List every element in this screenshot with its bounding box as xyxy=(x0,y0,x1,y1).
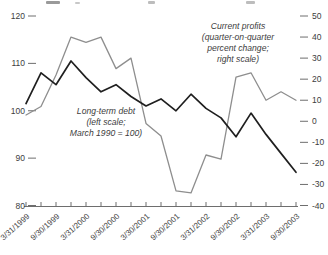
debt-line-series xyxy=(26,61,296,172)
annotation-line: (left scale; xyxy=(70,117,142,128)
right-axis-tick-label: 10 xyxy=(312,95,322,105)
right-axis-tick-label: 30 xyxy=(312,53,322,63)
dual-axis-line-chart: 3/31/19999/30/19993/31/20009/30/20003/30… xyxy=(0,0,328,255)
right-axis-tick-label: 0 xyxy=(312,116,317,126)
right-axis-tick-label: -30 xyxy=(312,179,325,189)
right-axis-tick-label: 50 xyxy=(312,11,322,21)
x-axis-tick-label: 9/30/2002 xyxy=(209,211,242,242)
annotation-line: right scale) xyxy=(202,54,274,65)
annotation-line: (quarter-on-quarter xyxy=(202,32,274,43)
x-axis-tick-label: 3/31/2003 xyxy=(239,211,272,242)
annotation-line: Current profits xyxy=(202,21,274,32)
x-axis-tick-label: 3/31/2000 xyxy=(59,211,92,242)
x-axis-tick-label: 9/30/2001 xyxy=(149,211,182,242)
annotation-line: March 1990 = 100) xyxy=(70,128,142,139)
right-axis-tick-label: -20 xyxy=(312,158,325,168)
left-axis-tick-label: 80 xyxy=(16,201,26,211)
right-axis-tick-label: 40 xyxy=(312,32,322,42)
left-axis-tick-label: 100 xyxy=(11,106,25,116)
x-axis-tick-label: 9/30/2000 xyxy=(89,211,122,242)
profits-series-annotation: Current profits (quarter-on-quarter perc… xyxy=(202,21,274,65)
x-axis-tick-label: 9/30/2003 xyxy=(269,211,302,242)
x-axis-tick-label: 9/30/1999 xyxy=(29,211,62,242)
debt-series-annotation: Long-term debt (left scale; March 1990 =… xyxy=(70,106,142,139)
x-axis-tick-label: 3/31/1999 xyxy=(0,211,32,242)
chart-figure: 3/31/19999/30/19993/31/20009/30/20003/30… xyxy=(0,0,328,255)
left-axis-tick-label: 110 xyxy=(11,58,25,68)
annotation-line: Long-term debt xyxy=(70,106,142,117)
right-axis-tick-label: -40 xyxy=(312,201,325,211)
x-axis-tick-label: 3/30/2001 xyxy=(119,211,152,242)
right-axis-tick-label: 20 xyxy=(312,74,322,84)
annotation-line: percent change; xyxy=(202,43,274,54)
left-axis-tick-label: 90 xyxy=(16,153,26,163)
right-axis-tick-label: -10 xyxy=(312,137,325,147)
x-axis-tick-label: 3/31/2002 xyxy=(179,211,212,242)
left-axis-tick-label: 120 xyxy=(11,11,25,21)
